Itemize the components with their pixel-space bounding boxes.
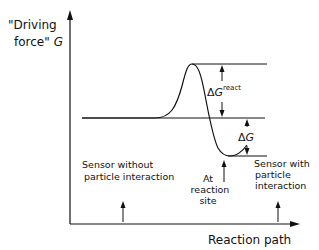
diagram-canvas: "Driving force"G Reaction path ΔGreact Δ… <box>0 0 319 250</box>
y-axis-label-line1: "Driving <box>8 18 57 32</box>
delta-g-react-arrow-down-icon <box>220 110 225 117</box>
x-axis-arrow-icon <box>290 221 300 227</box>
left-annotation-line1: Sensor without <box>82 159 154 170</box>
right-annotation-line2: particle <box>255 169 291 180</box>
y-axis-symbol: G <box>54 35 63 49</box>
right-annotation-line1: Sensor with <box>254 158 310 169</box>
left-pointer-arrow-icon <box>121 201 126 208</box>
middle-annotation-line1: At <box>203 173 213 184</box>
delta-g-arrow-up-icon <box>245 119 250 126</box>
left-annotation-line2: particle interaction <box>84 171 174 182</box>
delta-g-label: ΔG <box>238 131 254 144</box>
delta-g-react-label: ΔGreact <box>207 84 241 99</box>
middle-pointer-arrow-icon <box>222 160 227 167</box>
x-axis-label: Reaction path <box>208 233 291 247</box>
right-annotation-line3: interaction <box>255 180 306 191</box>
y-axis-label-line2: force"G <box>14 35 63 49</box>
y-axis-arrow-icon <box>67 10 73 20</box>
right-pointer-arrow-icon <box>276 201 281 208</box>
energy-diagram: "Driving force"G Reaction path ΔGreact Δ… <box>0 0 319 250</box>
delta-g-react-arrow-up-icon <box>220 65 225 72</box>
delta-g-arrow-down-icon <box>245 148 250 155</box>
middle-annotation-line3: site <box>199 195 216 206</box>
middle-annotation-line2: reaction <box>191 184 230 195</box>
